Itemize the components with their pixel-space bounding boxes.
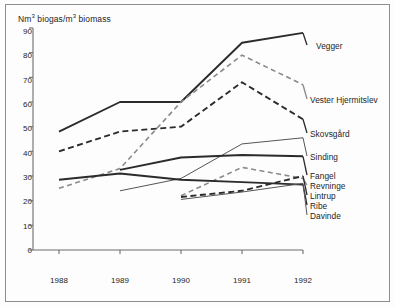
series-line-fangel [120, 155, 303, 170]
series-line-ribe [59, 174, 303, 185]
plot-canvas [0, 0, 395, 307]
axes-group [29, 28, 303, 254]
series-line-vester-hjermitslev [59, 55, 303, 188]
leader-line-sinding [303, 138, 307, 156]
x-tick-marks [59, 250, 303, 254]
leader-line-vester-hjermitslev [303, 85, 307, 99]
series-line-vegger [59, 33, 303, 132]
series-lines-group [59, 33, 303, 200]
leader-line-vegger [303, 33, 307, 45]
leader-line-skovsg-rd [303, 119, 307, 133]
leader-lines-group [303, 33, 307, 215]
leader-line-fangel [303, 156, 307, 175]
y-tick-marks [29, 28, 33, 250]
chart-figure: Nm3 biogas/m3 biomass 90 80 70 60 50 40 … [0, 0, 395, 307]
